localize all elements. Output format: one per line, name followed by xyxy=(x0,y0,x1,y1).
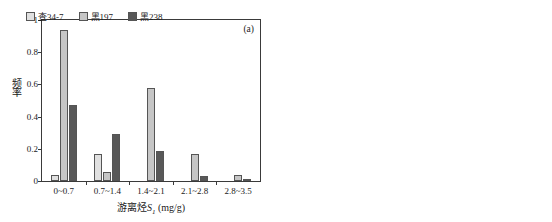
plot-area-a: (a) 00.20.40.60.810~0.70.7~1.41.4~2.12.1… xyxy=(41,19,261,182)
panel-a-x-tick-label: 0.7~1.4 xyxy=(94,186,121,196)
panel-a-y-tick-label: 0.6 xyxy=(27,79,38,89)
x-axis-title-a-text: 游离烃 xyxy=(117,202,147,213)
legend-a: 查34-7黑197黑238 xyxy=(26,10,163,23)
panel-a-y-tick-mark xyxy=(38,181,42,182)
legend-item-label: 查34-7 xyxy=(38,10,64,23)
panel-a-x-tick-label: 2.1~2.8 xyxy=(181,186,208,196)
panel-a-y-tick-mark xyxy=(38,117,42,118)
panel-a-y-tick-mark xyxy=(38,84,42,85)
panel-a-x-tick-mark xyxy=(173,181,174,185)
y-axis-title-a: 频率 xyxy=(8,78,23,96)
legend-item-label: 黑238 xyxy=(140,10,163,23)
panel-a-x-tick-mark xyxy=(216,181,217,185)
panel-a-y-tick-label: 0.8 xyxy=(27,47,38,57)
legend-swatch-icon xyxy=(128,12,137,21)
panel-tag-a: (a) xyxy=(243,24,254,34)
bar xyxy=(243,179,251,181)
bar xyxy=(69,105,77,181)
panel-a-x-tick-label: 0~0.7 xyxy=(53,186,74,196)
legend-item-label: 黑197 xyxy=(91,10,114,23)
panel-a-x-tick-mark xyxy=(129,181,130,185)
legend-swatch-icon xyxy=(79,12,88,21)
bar xyxy=(234,175,242,181)
figure-container: 频率 (a) 00.20.40.60.810~0.70.7~1.41.4~2.1… xyxy=(0,0,552,222)
bar xyxy=(200,176,208,181)
bar xyxy=(147,88,155,181)
panel-a-x-tick-label: 1.4~2.1 xyxy=(137,186,164,196)
panel-a-x-tick-label: 2.8~3.5 xyxy=(225,186,252,196)
panel-a-y-tick-label: 0.4 xyxy=(27,112,38,122)
legend-item: 查34-7 xyxy=(26,10,64,23)
bar xyxy=(60,30,68,181)
panel-a-y-tick-mark xyxy=(38,149,42,150)
bar xyxy=(51,175,59,181)
x-axis-title-a-unit: (mg/g) xyxy=(155,202,185,213)
panel-a-y-tick-label: 0 xyxy=(34,176,39,186)
bar xyxy=(103,172,111,181)
panel-a-x-tick-mark xyxy=(86,181,87,185)
chart-panel-b: 频率 (b) 样品点: 182个井名: 黑197黑238查34-7 00.10.… xyxy=(276,0,552,222)
bar xyxy=(112,134,120,181)
panel-a-y-tick-label: 0.2 xyxy=(27,144,38,154)
x-axis-title-a: 游离烃S1 (mg/g) xyxy=(41,199,261,216)
bar xyxy=(191,154,199,181)
bar xyxy=(94,154,102,181)
chart-panel-a: 频率 (a) 00.20.40.60.810~0.70.7~1.41.4~2.1… xyxy=(0,0,276,222)
legend-item: 黑238 xyxy=(128,10,163,23)
legend-swatch-icon xyxy=(26,12,35,21)
panel-a-y-tick-mark xyxy=(38,52,42,53)
bar xyxy=(156,151,164,181)
legend-item: 黑197 xyxy=(79,10,114,23)
